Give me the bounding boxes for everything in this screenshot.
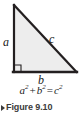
- side-label-a: a: [3, 36, 9, 48]
- equation-equals: =: [46, 84, 54, 96]
- equation-exp-c: 2: [59, 83, 63, 91]
- triangle-right-icon: [1, 105, 5, 111]
- equation-plus: +: [29, 84, 37, 96]
- figure-caption-text: Figure 9.10: [6, 103, 52, 112]
- figure-container: a c b a2+b2=c2 Figure 9.10: [0, 0, 82, 117]
- side-label-c: c: [49, 33, 54, 45]
- pythagorean-equation: a2+b2=c2: [0, 85, 82, 96]
- figure-caption: Figure 9.10: [1, 103, 52, 112]
- right-triangle-diagram: a c b: [0, 0, 82, 88]
